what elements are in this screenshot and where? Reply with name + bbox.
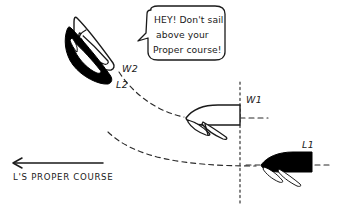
bubble-line-3: Proper course! [153,44,222,55]
proper-course-arrow: L'S PROPER COURSE [13,158,113,182]
boat-label-w2: W2 [122,63,138,74]
boat-label-l2: L2 [116,79,128,90]
bubble-line-2: above your [156,29,209,40]
boat-l1[interactable]: L1 [261,139,314,186]
boat-w1[interactable]: W1 [186,94,262,139]
diagram-canvas: W2 L2 W1 L1 HEY! Don't sail a [0,0,339,219]
windward-track-curve [119,72,184,117]
leeward-track-curve [108,132,256,166]
bubble-line-1: HEY! Don't sail [154,14,224,25]
speech-bubble[interactable]: HEY! Don't sail above your Proper course… [138,6,225,60]
boat-l2[interactable]: L2 [65,27,128,90]
sailing-diagram: W2 L2 W1 L1 HEY! Don't sail a [0,0,339,219]
boat-label-w1: W1 [246,94,262,105]
course-arrow-label: L'S PROPER COURSE [13,172,113,182]
boat-label-l1: L1 [302,139,314,150]
